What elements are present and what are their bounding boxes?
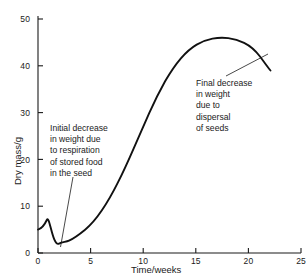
plot-area	[0, 0, 307, 280]
y-tick-label-50: 50	[8, 14, 30, 24]
y-axis-ticks	[38, 19, 43, 253]
y-tick-label-30: 30	[8, 108, 30, 118]
annotation-initial-line-2: in weight due	[50, 134, 108, 145]
annotation-initial-line-4: of stored food	[50, 157, 108, 168]
y-tick-label-0: 0	[8, 248, 30, 258]
x-axis-ticks	[38, 248, 301, 253]
annotation-final-line-5: of seeds	[196, 123, 252, 134]
annotation-initial-line-1: Initial decrease	[50, 123, 108, 134]
annotation-final-line-1: Final decrease	[196, 78, 252, 89]
annotation-initial-line-3: to respiration	[50, 145, 108, 156]
annotation-final-line-4: dispersal	[196, 112, 252, 123]
annotation-final-line-2: in weight	[196, 89, 252, 100]
x-axis-title: Time/weeks	[131, 264, 181, 275]
leader-line-initial-decrease	[61, 177, 74, 247]
y-axis-title: Dry mass/g	[12, 137, 23, 185]
dry-mass-vs-time-chart: 50 40 30 20 10 0 0 5 10 15 20 25 Dry mas…	[0, 0, 307, 280]
x-tick-label-15: 15	[186, 256, 206, 266]
y-tick-label-10: 10	[8, 201, 30, 211]
annotation-initial-line-5: in the seed	[50, 168, 108, 179]
annotation-initial-decrease: Initial decrease in weight due to respir…	[50, 123, 108, 179]
x-tick-label-20: 20	[238, 256, 258, 266]
x-tick-label-0: 0	[28, 256, 48, 266]
leader-line-final-decrease	[226, 54, 268, 76]
annotation-final-line-3: due to	[196, 100, 252, 111]
x-tick-label-25: 25	[291, 256, 307, 266]
y-tick-label-40: 40	[8, 61, 30, 71]
x-tick-label-5: 5	[81, 256, 101, 266]
annotation-final-decrease: Final decrease in weight due to dispersa…	[196, 78, 252, 134]
